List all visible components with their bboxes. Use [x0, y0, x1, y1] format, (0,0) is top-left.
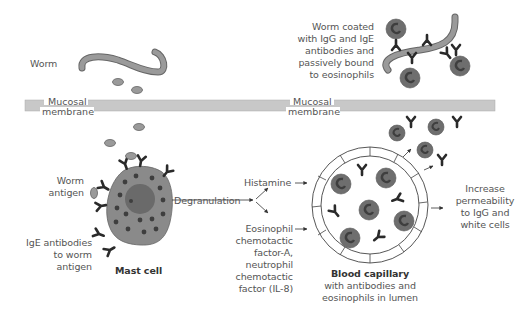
coated-worm-icon [386, 17, 470, 88]
membrane-label-right-2: membrane [288, 107, 340, 117]
mast-cell-icon [91, 153, 174, 256]
coated-worm-label: Worm coated with IgG and IgE antibodies … [272, 21, 374, 81]
mucosal-membrane [25, 100, 495, 111]
blood-capillary-label: Blood capillary with antibodies and eosi… [314, 268, 426, 304]
worm-label: Worm [30, 58, 57, 70]
mast-cell-label: Mast cell [115, 265, 162, 277]
antigen-particles [105, 79, 145, 147]
histamine-label: Histamine [244, 177, 291, 189]
ige-antibodies-label: IgE antibodies to worm antigen [10, 237, 92, 273]
membrane-label-left-2: membrane [42, 107, 94, 117]
worm-antigen-label: Worm antigen [30, 175, 84, 199]
degranulation-label: Degranulation [174, 195, 240, 207]
permeability-label: Increase permeability to IgG and white c… [447, 183, 523, 231]
blood-capillary-icon [312, 147, 428, 263]
chemotactic-factor-label: Eosinophil chemotactic factor-A, neutrop… [222, 223, 293, 295]
worm-icon [82, 52, 164, 72]
